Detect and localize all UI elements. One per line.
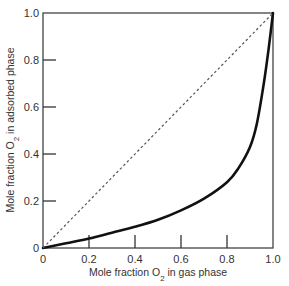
chart: 00.20.40.60.81.0 00.20.40.60.81.0 Mole f… <box>0 0 289 286</box>
x-tick-label: 0.8 <box>219 253 234 265</box>
y-tick-label: 1.0 <box>24 7 39 19</box>
y-tick-label: 0.4 <box>24 148 39 160</box>
plot-border <box>43 13 273 248</box>
x-axis-ticks: 00.20.40.60.81.0 <box>40 235 281 265</box>
x-tick-label: 1.0 <box>265 253 280 265</box>
equilibrium-curve <box>43 13 273 248</box>
x-axis-label: Mole fraction O2 in gas phase <box>89 266 227 283</box>
y-tick-label: 0 <box>33 242 39 254</box>
x-tick-label: 0 <box>40 253 46 265</box>
diagonal-reference-line <box>43 13 273 248</box>
x-tick-label: 0.4 <box>127 253 142 265</box>
y-tick-label: 0.8 <box>24 54 39 66</box>
y-axis-label: Mole fraction O2 in adsorbed phase <box>4 47 21 212</box>
series-layer <box>43 13 273 248</box>
x-tick-label: 0.2 <box>81 253 96 265</box>
y-axis-ticks: 00.20.40.60.81.0 <box>24 7 56 254</box>
y-tick-label: 0.2 <box>24 195 39 207</box>
x-tick-label: 0.6 <box>173 253 188 265</box>
plot-frame <box>43 13 273 248</box>
y-tick-label: 0.6 <box>24 101 39 113</box>
